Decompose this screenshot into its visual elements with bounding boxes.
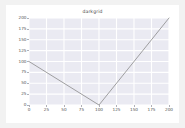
x-tick-mark bbox=[151, 105, 152, 107]
x-tick-label: 25 bbox=[44, 108, 49, 112]
x-tick-mark bbox=[46, 105, 47, 107]
y-tick-label: 0 bbox=[24, 103, 27, 107]
figure-canvas: darkgrid 0255075100125150175200 02550751… bbox=[6, 5, 179, 123]
x-tick-label: 125 bbox=[113, 108, 121, 112]
y-tick-mark bbox=[27, 18, 29, 19]
y-tick-mark bbox=[27, 94, 29, 95]
x-tick-mark bbox=[81, 105, 82, 107]
x-tick-label: 100 bbox=[95, 108, 103, 112]
y-tick-label: 175 bbox=[19, 27, 27, 31]
x-tick-label: 175 bbox=[148, 108, 156, 112]
y-tick-mark bbox=[27, 83, 29, 84]
x-tick-label: 200 bbox=[165, 108, 173, 112]
y-tick-label: 50 bbox=[21, 81, 26, 85]
x-tick-label: 0 bbox=[28, 108, 31, 112]
chart-title: darkgrid bbox=[6, 9, 179, 15]
x-tick-mark bbox=[134, 105, 135, 107]
x-tick-label: 75 bbox=[79, 108, 84, 112]
y-tick-label: 25 bbox=[21, 92, 26, 96]
y-tick-label: 75 bbox=[21, 70, 26, 74]
y-tick-mark bbox=[27, 29, 29, 30]
y-tick-mark bbox=[27, 61, 29, 62]
x-tick-mark bbox=[29, 105, 30, 107]
y-tick-mark bbox=[27, 39, 29, 40]
x-tick-mark bbox=[64, 105, 65, 107]
data-layer bbox=[29, 18, 169, 105]
y-tick-mark bbox=[27, 50, 29, 51]
plot-area: 0255075100125150175200 02550751001251501… bbox=[29, 18, 169, 105]
y-tick-label: 150 bbox=[19, 38, 27, 42]
y-tick-label: 200 bbox=[19, 16, 27, 20]
x-tick-mark bbox=[116, 105, 117, 107]
x-tick-label: 150 bbox=[130, 108, 138, 112]
x-tick-mark bbox=[169, 105, 170, 107]
x-tick-label: 50 bbox=[61, 108, 66, 112]
y-tick-label: 125 bbox=[19, 49, 27, 53]
y-tick-mark bbox=[27, 72, 29, 73]
y-tick-label: 100 bbox=[19, 59, 27, 63]
data-line-0 bbox=[29, 18, 169, 105]
x-tick-mark bbox=[99, 105, 100, 107]
